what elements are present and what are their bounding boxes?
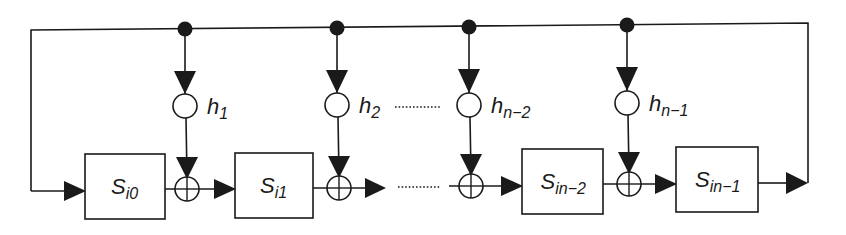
coefficient-label: h2 <box>359 93 380 121</box>
register-block-sn2: Sin−2 <box>522 149 603 214</box>
diagram-canvas: Si0Si1Sin−2Sin−1 h1h2hn−2hn−1 <box>0 0 846 235</box>
arrow-down-icon <box>176 157 198 179</box>
arrow-down-icon <box>618 152 640 174</box>
multiplier-circle-icon <box>457 93 481 117</box>
arrow-down-icon <box>616 67 638 91</box>
coefficient-label: h1 <box>207 94 228 122</box>
arrow-right-icon <box>64 181 86 201</box>
arrow-right-icon <box>786 172 808 194</box>
arrow-right-icon <box>655 174 677 194</box>
tap-h2: h2 <box>325 21 380 201</box>
junction-dot-icon <box>462 20 477 35</box>
coefficient-label: hn−2 <box>491 93 530 121</box>
arrow-down-icon <box>326 70 348 93</box>
arrow-down-icon <box>328 156 350 178</box>
tap-h1: h1 <box>173 22 228 202</box>
arrow-right-icon <box>501 176 523 196</box>
register-block-s1: Si1 <box>235 153 313 218</box>
coefficient-label: hn−1 <box>649 91 688 119</box>
shift-register-diagram: Si0Si1Sin−2Sin−1 h1h2hn−2hn−1 <box>0 0 846 235</box>
arrow-down-icon <box>458 69 480 93</box>
arrow-down-icon <box>460 154 482 176</box>
arrow-down-icon <box>174 71 196 94</box>
tap-hn2: hn−2 <box>457 20 530 199</box>
multiplier-circle-icon <box>173 94 197 118</box>
arrow-right-icon <box>365 178 386 198</box>
multiplier-circle-icon <box>615 91 639 115</box>
junction-dot-icon <box>620 18 635 33</box>
multiplier-circle-icon <box>325 93 349 117</box>
arrow-right-icon <box>214 179 236 199</box>
junction-dot-icon <box>330 21 345 36</box>
junction-dot-icon <box>178 22 193 37</box>
register-block-sn1: Sin−1 <box>676 147 758 212</box>
register-block-s0: Si0 <box>85 154 165 219</box>
